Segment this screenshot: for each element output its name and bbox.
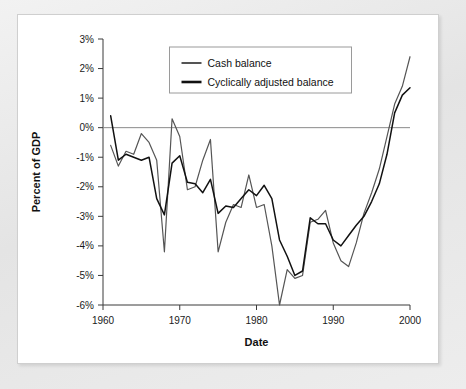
- series-line-1: [111, 88, 410, 276]
- y-tick-label: -5%: [76, 270, 94, 281]
- y-tick-label: -6%: [76, 300, 94, 311]
- y-tick-label: -4%: [76, 240, 94, 251]
- y-tick-label: 1%: [80, 93, 95, 104]
- figure-panel: 3%2%1%0%-1%-2%-3%-4%-5%-6%19601970198019…: [17, 14, 439, 364]
- x-tick-label: 1980: [245, 315, 268, 326]
- y-axis-title: Percent of GDP: [30, 132, 42, 213]
- y-tick-label: -3%: [76, 211, 94, 222]
- legend-label-0: Cash balance: [208, 57, 272, 69]
- series-line-0: [111, 57, 410, 305]
- x-tick-label: 1990: [322, 315, 345, 326]
- y-tick-label: 2%: [80, 63, 95, 74]
- y-tick-label: 0%: [80, 122, 95, 133]
- x-tick-label: 1970: [169, 315, 192, 326]
- y-tick-label: 3%: [80, 34, 95, 45]
- x-tick-label: 2000: [399, 315, 422, 326]
- line-chart: 3%2%1%0%-1%-2%-3%-4%-5%-6%19601970198019…: [18, 15, 438, 363]
- legend-label-1: Cyclically adjusted balance: [208, 76, 334, 88]
- y-tick-label: -2%: [76, 181, 94, 192]
- y-tick-label: -1%: [76, 152, 94, 163]
- figure-outer-frame: 3%2%1%0%-1%-2%-3%-4%-5%-6%19601970198019…: [0, 0, 466, 389]
- x-tick-label: 1960: [92, 315, 115, 326]
- x-axis-title: Date: [245, 336, 269, 348]
